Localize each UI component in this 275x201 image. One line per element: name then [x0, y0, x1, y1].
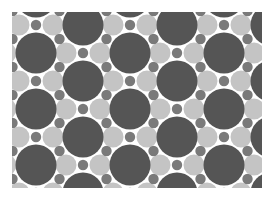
- light-circle: [150, 43, 171, 64]
- light-circle: [197, 127, 218, 148]
- light-circle: [103, 71, 124, 92]
- small-dark-circle: [148, 174, 158, 184]
- light-circle: [231, 127, 252, 148]
- small-dark-circle: [195, 62, 205, 72]
- small-dark-circle: [125, 132, 135, 142]
- big-dark-circle: [110, 145, 151, 186]
- light-circle: [231, 71, 252, 92]
- small-dark-circle: [101, 174, 111, 184]
- small-dark-circle: [242, 34, 252, 44]
- small-dark-circle: [195, 118, 205, 128]
- small-dark-circle: [172, 104, 182, 114]
- light-circle: [90, 43, 111, 64]
- small-dark-circle: [101, 90, 111, 100]
- small-dark-circle: [172, 48, 182, 58]
- light-circle: [244, 155, 265, 176]
- big-dark-circle: [204, 145, 245, 186]
- small-dark-circle: [31, 20, 41, 30]
- small-dark-circle: [242, 62, 252, 72]
- light-circle: [150, 155, 171, 176]
- small-dark-circle: [54, 90, 64, 100]
- light-circle: [197, 15, 218, 36]
- light-circle: [184, 99, 205, 120]
- small-dark-circle: [172, 160, 182, 170]
- light-circle: [56, 155, 77, 176]
- light-circle: [231, 15, 252, 36]
- big-dark-circle: [63, 61, 104, 102]
- light-circle: [184, 155, 205, 176]
- light-circle: [56, 99, 77, 120]
- big-dark-circle: [204, 89, 245, 130]
- small-dark-circle: [242, 146, 252, 156]
- big-dark-circle: [16, 89, 57, 130]
- small-dark-circle: [54, 118, 64, 128]
- small-dark-circle: [219, 132, 229, 142]
- light-circle: [244, 99, 265, 120]
- small-dark-circle: [54, 174, 64, 184]
- small-dark-circle: [195, 34, 205, 44]
- small-dark-circle: [195, 146, 205, 156]
- small-dark-circle: [148, 146, 158, 156]
- small-dark-circle: [125, 20, 135, 30]
- light-circle: [184, 43, 205, 64]
- small-dark-circle: [242, 174, 252, 184]
- light-circle: [137, 127, 158, 148]
- small-dark-circle: [31, 132, 41, 142]
- small-dark-circle: [101, 34, 111, 44]
- light-circle: [244, 43, 265, 64]
- small-dark-circle: [148, 62, 158, 72]
- small-dark-circle: [54, 146, 64, 156]
- circle-pattern-canvas: [0, 0, 275, 201]
- big-dark-circle: [63, 117, 104, 158]
- small-dark-circle: [195, 174, 205, 184]
- light-circle: [197, 71, 218, 92]
- small-dark-circle: [101, 62, 111, 72]
- small-dark-circle: [54, 34, 64, 44]
- light-circle: [103, 127, 124, 148]
- big-dark-circle: [157, 117, 198, 158]
- big-dark-circle: [110, 89, 151, 130]
- small-dark-circle: [219, 76, 229, 86]
- small-dark-circle: [148, 90, 158, 100]
- small-dark-circle: [148, 118, 158, 128]
- big-dark-circle: [16, 145, 57, 186]
- big-dark-circle: [157, 61, 198, 102]
- small-dark-circle: [195, 90, 205, 100]
- light-circle: [137, 15, 158, 36]
- light-circle: [103, 15, 124, 36]
- small-dark-circle: [78, 160, 88, 170]
- small-dark-circle: [78, 48, 88, 58]
- small-dark-circle: [242, 90, 252, 100]
- small-dark-circle: [31, 76, 41, 86]
- light-circle: [137, 71, 158, 92]
- small-dark-circle: [54, 62, 64, 72]
- big-dark-circle: [110, 33, 151, 74]
- light-circle: [90, 99, 111, 120]
- small-dark-circle: [78, 104, 88, 114]
- small-dark-circle: [242, 118, 252, 128]
- light-circle: [90, 155, 111, 176]
- small-dark-circle: [125, 76, 135, 86]
- small-dark-circle: [101, 118, 111, 128]
- light-circle: [43, 127, 64, 148]
- big-dark-circle: [16, 33, 57, 74]
- small-dark-circle: [148, 34, 158, 44]
- light-circle: [43, 15, 64, 36]
- light-circle: [56, 43, 77, 64]
- light-circle: [43, 71, 64, 92]
- small-dark-circle: [101, 146, 111, 156]
- small-dark-circle: [219, 20, 229, 30]
- big-dark-circle: [204, 33, 245, 74]
- light-circle: [150, 99, 171, 120]
